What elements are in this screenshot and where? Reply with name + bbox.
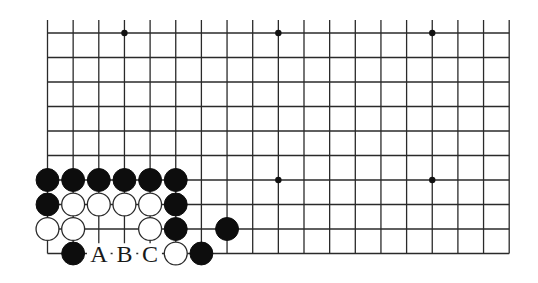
white-stone [139, 193, 162, 216]
black-stone [164, 169, 187, 192]
black-stone [216, 218, 239, 241]
stones-layer [36, 169, 238, 265]
go-board: ABC [0, 0, 538, 283]
board-grid [48, 20, 510, 254]
star-point [275, 30, 281, 36]
white-stone [62, 193, 85, 216]
black-stone [164, 193, 187, 216]
star-point [121, 30, 127, 36]
black-stone [139, 169, 162, 192]
move-labels: ABC [87, 241, 162, 268]
star-point [429, 30, 435, 36]
white-stone [164, 242, 187, 265]
white-stone [139, 218, 162, 241]
star-point [275, 177, 281, 183]
black-stone [36, 169, 59, 192]
move-label-b: B [116, 241, 132, 267]
black-stone [164, 218, 187, 241]
star-point [429, 177, 435, 183]
black-stone [36, 193, 59, 216]
white-stone [62, 218, 85, 241]
black-stone [190, 242, 213, 265]
white-stone [87, 193, 110, 216]
black-stone [62, 242, 85, 265]
move-label-a: A [90, 241, 108, 267]
white-stone [36, 218, 59, 241]
move-label-c: C [142, 241, 158, 267]
white-stone [113, 193, 136, 216]
black-stone [113, 169, 136, 192]
black-stone [62, 169, 85, 192]
black-stone [87, 169, 110, 192]
